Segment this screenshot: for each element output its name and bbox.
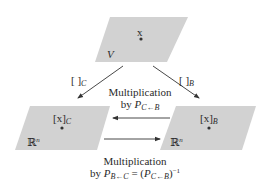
top-space-label: V [107,48,114,60]
lower-multiplication-label: Multiplication by PB←C = (PC←B)−1 [70,155,200,181]
coord-map-b-label: [ ]B [179,74,194,88]
top-vector-label: x [137,26,143,38]
coord-vector: [x] [200,112,213,124]
real-space-symbol: ℝ [170,136,179,148]
by-text: by [121,98,135,110]
right-vector-label: [x]B [200,112,218,126]
equals-text: = ( [129,167,144,179]
basis-c-subscript: C [66,117,71,126]
matrix-p: P [144,167,151,179]
coord-map-c-label: [ ]C [71,74,86,88]
multiplication-text: Multiplication [70,155,200,167]
dimension-n: n [36,136,40,144]
basis-b-subscript: B [189,79,194,88]
vector-x: x [137,26,143,38]
bracket-map: [ ] [179,74,189,86]
real-space-symbol: ℝ [27,136,36,148]
vector-point-right [207,126,210,129]
coord-vector: [x] [53,112,66,124]
by-matrix-line: by PB←C = (PC←B)−1 [70,167,200,181]
matrix-subscript: B←C [110,172,128,181]
left-space-label: ℝn [27,136,40,150]
multiplication-text: Multiplication [100,86,180,98]
space-v: V [107,48,114,60]
basis-b-subscript: B [213,117,218,126]
by-text: by [90,167,104,179]
matrix-subscript: C←B [141,103,159,112]
upper-multiplication-label: Multiplication by PC←B [100,86,180,112]
inverse-exponent: −1 [173,167,180,175]
matrix-subscript: C←B [151,172,169,181]
right-space-label: ℝn [170,136,183,150]
dimension-n: n [179,136,183,144]
basis-c-subscript: C [81,79,86,88]
by-matrix-line: by PC←B [100,98,180,112]
bracket-map: [ ] [71,74,81,86]
vector-point-left [60,126,63,129]
left-vector-label: [x]C [53,112,71,126]
